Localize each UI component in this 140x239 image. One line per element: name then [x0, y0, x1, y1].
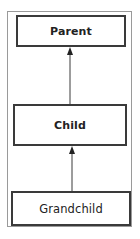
- node-child: Child: [13, 104, 127, 146]
- arrow-child-to-parent: [67, 47, 73, 104]
- node-label: Parent: [50, 25, 92, 38]
- node-label: Grandchild: [39, 202, 103, 216]
- node-parent: Parent: [16, 15, 126, 47]
- node-grandchild: Grandchild: [11, 191, 131, 226]
- node-label: Child: [54, 119, 86, 132]
- arrow-grandchild-to-child: [69, 146, 75, 191]
